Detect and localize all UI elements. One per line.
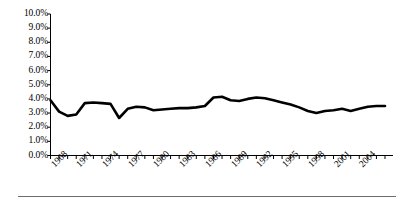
footer-divider: [18, 196, 396, 197]
x-axis-tick-label: 1980: [151, 148, 171, 168]
chart-plot-area: 10.0%9.0%8.0%7.0%6.0%5.0%4.0%3.0%2.0%1.0…: [0, 0, 409, 208]
x-axis-tick-label: 2001: [332, 148, 352, 168]
chart-screenshot: 10.0%9.0%8.0%7.0%6.0%5.0%4.0%3.0%2.0%1.0…: [0, 0, 409, 208]
x-axis-tick-label: 1983: [177, 148, 197, 168]
x-axis-tick-label: 1971: [74, 148, 94, 168]
x-axis-tick-label: 1998: [306, 148, 326, 168]
x-axis-tick-label: 1974: [100, 148, 120, 168]
x-axis-tick-label: 1995: [280, 148, 300, 168]
x-axis-tick-label: 2004: [357, 148, 377, 168]
x-axis-tick-label: 1986: [203, 148, 223, 168]
x-axis-tick-label: 1968: [49, 148, 69, 168]
x-axis-tick-label: 1977: [126, 148, 146, 168]
x-axis-tick-label: 1989: [229, 148, 249, 168]
x-axis-tick-label: 1992: [254, 148, 274, 168]
x-axis-tick-labels: 1968197119741977198019831986198919921995…: [0, 0, 409, 208]
